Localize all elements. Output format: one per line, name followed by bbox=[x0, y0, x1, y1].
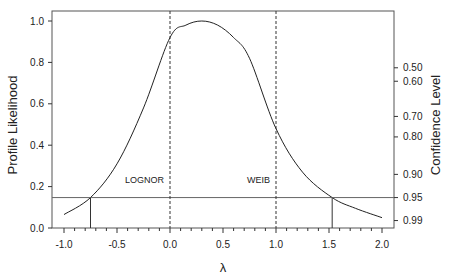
profile-likelihood-chart: -1.0-0.50.00.51.01.52.0 0.00.20.40.60.81… bbox=[0, 0, 449, 280]
right-tick-label: 0.50 bbox=[403, 62, 423, 73]
x-tick-label: 1.0 bbox=[269, 239, 283, 250]
x-tick-label: 0.5 bbox=[216, 239, 230, 250]
y-tick-label: 0.2 bbox=[30, 181, 44, 192]
right-tick-label: 0.90 bbox=[403, 169, 423, 180]
x-axis: -1.0-0.50.00.51.01.52.0 bbox=[55, 228, 389, 250]
reference-lines bbox=[52, 11, 394, 228]
right-tick-label: 0.60 bbox=[403, 76, 423, 87]
y-tick-label: 0.0 bbox=[30, 223, 44, 234]
right-tick-label: 0.70 bbox=[403, 111, 423, 122]
x-tick-label: -0.5 bbox=[108, 239, 126, 250]
right-tick-label: 0.99 bbox=[403, 215, 423, 226]
plot-border bbox=[52, 11, 394, 228]
y-axis-left: 0.00.20.40.60.81.0 bbox=[30, 16, 52, 234]
plot-frame bbox=[52, 11, 394, 228]
y-tick-label: 1.0 bbox=[30, 16, 44, 27]
y-axis-title: Profile Likelihood bbox=[5, 75, 20, 174]
right-axis-title: Confidence Level bbox=[428, 75, 443, 176]
y-tick-label: 0.8 bbox=[30, 57, 44, 68]
right-tick-label: 0.80 bbox=[403, 131, 423, 142]
y-tick-label: 0.4 bbox=[30, 140, 44, 151]
weib-label: WEIB bbox=[247, 175, 270, 185]
x-tick-label: -1.0 bbox=[55, 239, 73, 250]
y-tick-label: 0.6 bbox=[30, 98, 44, 109]
x-tick-label: 0.0 bbox=[163, 239, 177, 250]
annotations: LOGNORWEIB bbox=[125, 175, 270, 185]
right-tick-label: 0.95 bbox=[403, 192, 423, 203]
lognor-label: LOGNOR bbox=[125, 175, 165, 185]
likelihood-curve-path bbox=[64, 21, 382, 218]
x-tick-label: 2.0 bbox=[375, 239, 389, 250]
x-axis-title: λ bbox=[220, 260, 227, 275]
y-axis-right: 0.500.600.700.800.900.950.99 bbox=[394, 62, 423, 226]
x-tick-label: 1.5 bbox=[322, 239, 336, 250]
likelihood-curve bbox=[64, 21, 382, 218]
